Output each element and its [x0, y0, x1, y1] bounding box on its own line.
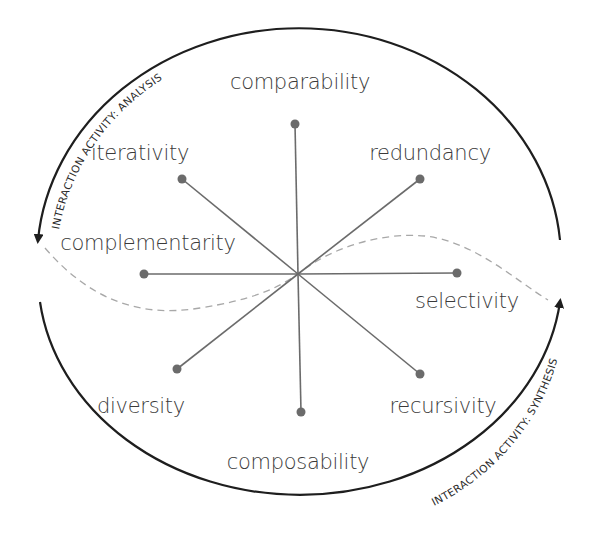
spoke-comparability — [295, 124, 298, 274]
label-iterativity: iterativity — [91, 141, 189, 165]
dimension-labels: comparability redundancy selectivity rec… — [60, 70, 519, 474]
interaction-dimensions-diagram: comparability redundancy selectivity rec… — [0, 0, 606, 537]
dot-complementarity — [140, 270, 149, 279]
dot-redundancy — [416, 175, 425, 184]
spoke-redundancy — [298, 179, 420, 274]
spoke-iterativity — [182, 179, 298, 274]
dot-composability — [297, 408, 306, 417]
dot-selectivity — [453, 269, 462, 278]
analysis-arc-arrow — [38, 28, 560, 240]
dot-iterativity — [178, 175, 187, 184]
label-composability: composability — [227, 450, 369, 474]
label-diversity: diversity — [97, 394, 185, 418]
dot-comparability — [291, 120, 300, 129]
spokes — [144, 124, 457, 412]
label-selectivity: selectivity — [415, 289, 519, 313]
spoke-diversity — [177, 274, 298, 369]
label-complementarity: complementarity — [60, 231, 235, 255]
label-comparability: comparability — [230, 70, 370, 94]
label-recursivity: recursivity — [390, 394, 497, 418]
synthesis-arc-label: Interaction activity: Synthesis — [429, 356, 559, 507]
spoke-recursivity — [298, 274, 420, 374]
spoke-composability — [298, 274, 301, 412]
spoke-selectivity — [298, 273, 457, 274]
label-redundancy: redundancy — [369, 141, 491, 165]
dot-recursivity — [416, 370, 425, 379]
dot-diversity — [173, 365, 182, 374]
